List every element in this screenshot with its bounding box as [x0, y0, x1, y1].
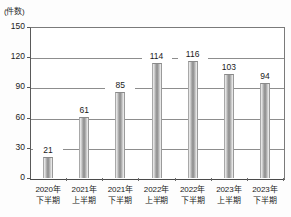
x-axis-tick-label: 2023年下半期 — [243, 184, 287, 206]
bar — [79, 117, 89, 178]
y-axis-tick-label: 30 — [0, 143, 25, 152]
y-axis-tick-mark — [27, 148, 30, 149]
bar-value-label: 21 — [33, 146, 63, 155]
y-axis-tick-mark — [27, 178, 30, 179]
y-axis-tick-label: 60 — [0, 113, 25, 122]
y-axis-tick-mark — [27, 87, 30, 88]
bar-value-label: 116 — [178, 50, 208, 59]
y-axis-tick-mark — [27, 57, 30, 58]
y-axis-tick-mark — [27, 118, 30, 119]
y-axis-tick-mark — [27, 27, 30, 28]
y-axis-tick-label: 0 — [0, 173, 25, 182]
bar — [152, 63, 162, 178]
x-axis-tick-mark — [247, 178, 248, 181]
bar — [115, 92, 125, 178]
y-axis-tick-label: 150 — [0, 22, 25, 31]
bar-value-label: 103 — [214, 63, 244, 72]
x-axis-tick-mark — [66, 178, 67, 181]
bar — [260, 83, 270, 178]
bar — [224, 74, 234, 178]
x-axis-tick-mark — [138, 178, 139, 181]
bar-chart: (件数) 1501209060300 21618511411610394 202… — [0, 0, 291, 217]
bar — [43, 157, 53, 178]
x-axis-tick-mark — [283, 178, 284, 181]
bar-value-label: 85 — [105, 81, 135, 90]
bar-value-label: 61 — [69, 106, 99, 115]
x-axis-tick-label-year: 2023年 — [243, 184, 287, 195]
x-axis-tick-mark — [175, 178, 176, 181]
y-axis-tick-label: 90 — [0, 82, 25, 91]
x-axis-tick-mark — [211, 178, 212, 181]
y-axis-tick-label: 120 — [0, 52, 25, 61]
x-axis-tick-label-half: 下半期 — [243, 195, 287, 206]
bar-value-label: 94 — [250, 72, 280, 81]
x-axis-tick-mark — [102, 178, 103, 181]
bar-value-label: 114 — [142, 52, 172, 61]
bar — [188, 61, 198, 178]
